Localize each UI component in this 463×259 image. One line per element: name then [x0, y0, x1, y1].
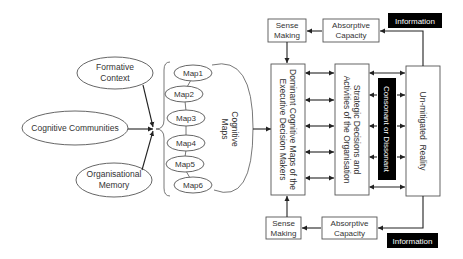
bottom-sense-line2: Making [271, 229, 297, 238]
map-node: Map5 [166, 156, 204, 172]
bottom-information-box: Information [387, 233, 438, 248]
dominant-cognitive-maps-box: Dominant Cognitive Maps of the Executive… [271, 64, 305, 195]
organisational-memory-line1: Organisational [87, 169, 142, 179]
dominant-line1: Dominant Cognitive Maps of the [288, 69, 298, 190]
bottom-absorptive-line1: Absorptive [331, 219, 369, 228]
top-information-box: Information [388, 13, 442, 28]
top-absorptive-line2: Capacity [335, 31, 366, 40]
cognitive-maps-label: Cognitive Maps [220, 111, 240, 147]
formative-context-node: Formative Context [77, 57, 153, 89]
top-sense-making-box: Sense Making [268, 19, 306, 42]
map-node: Map2 [165, 86, 203, 102]
map-node: Map1 [174, 65, 212, 81]
consonant-label: Consonant or Dissonant [382, 86, 391, 173]
cognitive-maps-line2: Maps [220, 119, 230, 140]
strategic-line1: Strategic Decisions and [352, 85, 362, 175]
top-reality-to-absorptive-arrow [380, 31, 423, 66]
strategic-line2: Activities of the Organisation [342, 76, 352, 184]
reality-label: Un-mitigated Reality [418, 92, 428, 172]
map-label: Map2 [174, 90, 195, 99]
map-label: Map4 [176, 139, 197, 148]
unmitigated-reality-box: Un-mitigated Reality [406, 66, 440, 196]
consonant-dissonant-box: Consonant or Dissonant [378, 78, 396, 180]
map-label: Map3 [176, 114, 197, 123]
bottom-absorptive-line2: Capacity [334, 229, 365, 238]
cognitive-communities-label: Cognitive Communities [31, 123, 118, 133]
dominant-strategic-arrows [306, 73, 334, 178]
top-absorptive-line1: Absorptive [332, 21, 370, 30]
map-node: Map3 [167, 110, 205, 126]
maps-brace [156, 62, 170, 196]
cognitive-communities-node: Cognitive Communities [22, 111, 128, 145]
bottom-absorptive-capacity-box: Absorptive Capacity [322, 217, 377, 239]
dominant-line2: Executive Decision Makers [278, 78, 288, 180]
map-label: Map6 [183, 181, 204, 190]
organisational-memory-line2: Memory [99, 180, 130, 190]
diagram-canvas: Formative Context Cognitive Communities … [0, 0, 463, 259]
map-label: Map5 [175, 160, 196, 169]
map-node: Map6 [174, 177, 212, 193]
formative-context-line1: Formative [96, 62, 134, 72]
top-information-label: Information [395, 17, 435, 26]
bottom-reality-to-absorptive-arrow [378, 196, 423, 228]
bottom-sense-line1: Sense [272, 219, 295, 228]
top-absorptive-capacity-box: Absorptive Capacity [323, 19, 379, 42]
top-sense-line1: Sense [276, 21, 299, 30]
formative-arrow [143, 85, 153, 127]
bottom-information-label: Information [392, 237, 432, 246]
cognitive-maps-line1: Cognitive [230, 111, 240, 147]
bottom-sense-making-box: Sense Making [266, 217, 301, 239]
formative-context-line2: Context [100, 73, 130, 83]
strategic-decisions-box: Strategic Decisions and Activities of th… [335, 64, 369, 195]
memory-arrow [142, 131, 153, 170]
top-sense-line2: Making [274, 31, 300, 40]
organisational-memory-node: Organisational Memory [76, 163, 152, 197]
map-node: Map4 [167, 135, 205, 151]
map-label: Map1 [183, 69, 204, 78]
